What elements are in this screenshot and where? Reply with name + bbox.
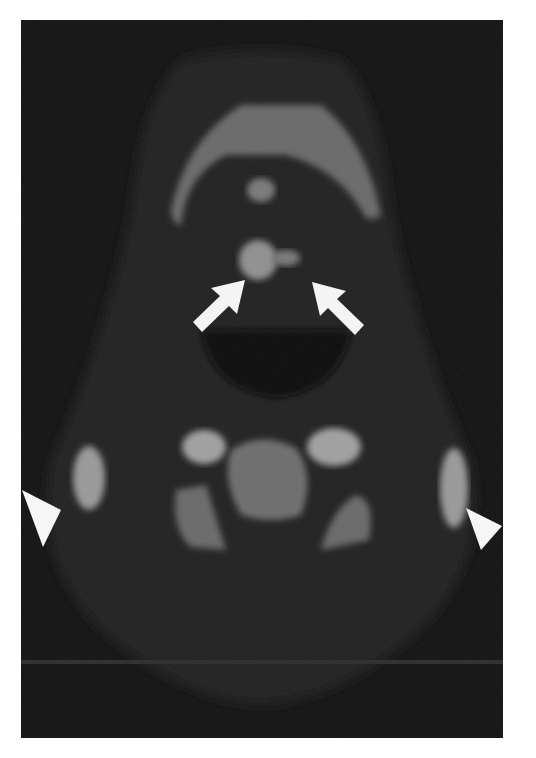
ct-scan-graphic <box>21 20 503 738</box>
ct-image <box>21 20 503 738</box>
